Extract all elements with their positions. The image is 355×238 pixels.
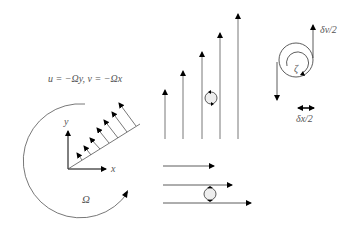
x-axis-label: x xyxy=(110,163,116,174)
dx-label: δx/2 xyxy=(296,113,313,124)
omega-label: Ω xyxy=(82,193,90,205)
vorticity-element: ζ δv/2 δx/2 xyxy=(277,24,337,124)
solid-body-rotation: u = −Ωy, v = −Ωx Ω y x xyxy=(23,73,140,218)
paddle-wheel-icon xyxy=(204,188,216,200)
velocity-vectors xyxy=(77,103,136,160)
rotation-arc xyxy=(23,104,128,218)
y-axis-label: y xyxy=(63,116,69,127)
vorticity-diagram: u = −Ωy, v = −Ωx Ω y x xyxy=(0,0,355,238)
velocity-formula: u = −Ωy, v = −Ωx xyxy=(48,73,123,84)
zeta-label: ζ xyxy=(294,63,299,75)
horizontal-shear-flow xyxy=(163,166,251,203)
vertical-shear-flow xyxy=(165,14,238,139)
dv-label: δv/2 xyxy=(320,24,337,35)
radius-line xyxy=(68,124,140,169)
